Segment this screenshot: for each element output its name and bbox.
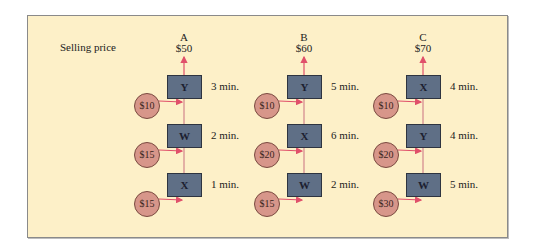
input-cost-coin: $10 <box>373 93 399 119</box>
process-time: 2 min. <box>211 129 239 141</box>
input-cost-coin: $20 <box>254 142 280 168</box>
input-cost-coin: $20 <box>373 142 399 168</box>
process-time: 3 min. <box>211 80 239 92</box>
machine-box: X <box>167 173 202 197</box>
process-time: 5 min. <box>450 178 478 190</box>
machine-box: W <box>406 173 441 197</box>
machine-box: W <box>287 173 322 197</box>
process-time: 5 min. <box>331 80 359 92</box>
machine-box: X <box>287 124 322 148</box>
input-cost-coin: $15 <box>254 191 280 217</box>
machine-box: Y <box>406 124 441 148</box>
input-cost-coin: $10 <box>254 93 280 119</box>
machine-box: Y <box>167 75 202 99</box>
machine-box: W <box>167 124 202 148</box>
input-cost-coin: $10 <box>134 93 160 119</box>
process-time: 4 min. <box>450 129 478 141</box>
process-time: 6 min. <box>331 129 359 141</box>
product-c-price: $70 <box>393 42 453 54</box>
process-time: 4 min. <box>450 80 478 92</box>
input-cost-coin: $15 <box>134 142 160 168</box>
input-cost-coin: $30 <box>373 191 399 217</box>
process-time: 1 min. <box>211 178 239 190</box>
product-a-price: $50 <box>154 42 214 54</box>
process-time: 2 min. <box>331 178 359 190</box>
machine-box: X <box>406 75 441 99</box>
machine-box: Y <box>287 75 322 99</box>
input-cost-coin: $15 <box>134 191 160 217</box>
product-b-price: $60 <box>274 42 334 54</box>
